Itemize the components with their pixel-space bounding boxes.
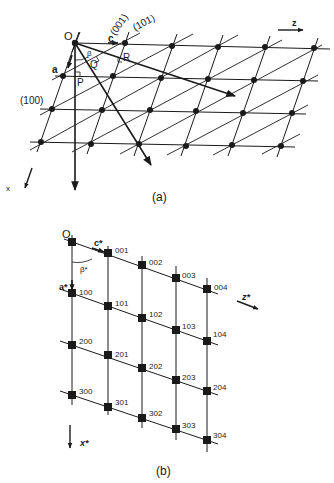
label-plane-001: (001) bbox=[108, 12, 130, 37]
label-plane-101: (101) bbox=[131, 12, 157, 33]
label-x-axis: x bbox=[6, 184, 10, 193]
point-label-302: 302 bbox=[149, 409, 163, 418]
point-label-201: 201 bbox=[115, 350, 129, 359]
x-axis-arrow bbox=[25, 168, 32, 188]
crystal-lattice-figure: O a c β P Q R (001) (101) (100) x z (a) bbox=[0, 0, 334, 483]
label-R: R bbox=[123, 52, 130, 63]
point-label-102: 102 bbox=[149, 310, 163, 319]
label-a-vector: a bbox=[52, 64, 58, 75]
point-label-300: 300 bbox=[79, 387, 93, 396]
label-a-star: a* bbox=[59, 282, 68, 292]
label-z-axis: z bbox=[292, 18, 297, 28]
label-beta: β bbox=[87, 49, 92, 58]
point-label-100: 100 bbox=[79, 288, 93, 297]
point-label-003: 003 bbox=[182, 271, 196, 280]
z-star-arrow bbox=[237, 301, 258, 309]
label-P: P bbox=[77, 77, 84, 88]
panel-a-direct-lattice bbox=[30, 32, 330, 190]
panel-b-labels: O c* β* a* x* z* 001 002 003 004 100 101… bbox=[59, 228, 251, 478]
point-label-001: 001 bbox=[115, 246, 129, 255]
point-label-303: 303 bbox=[182, 421, 196, 430]
label-plane-100: (100) bbox=[20, 95, 43, 106]
point-label-204: 204 bbox=[213, 383, 227, 392]
label-z-star: z* bbox=[241, 292, 251, 302]
point-label-103: 103 bbox=[182, 322, 196, 331]
point-label-202: 202 bbox=[149, 362, 163, 371]
point-label-004: 004 bbox=[214, 283, 228, 292]
point-label-002: 002 bbox=[149, 258, 163, 267]
diagonal-planes bbox=[30, 33, 322, 155]
label-origin-b: O bbox=[62, 228, 71, 240]
caption-b: (b) bbox=[156, 464, 171, 478]
label-c-star: c* bbox=[94, 238, 103, 248]
point-label-203: 203 bbox=[182, 373, 196, 382]
label-x-star: x* bbox=[79, 438, 89, 448]
point-label-301: 301 bbox=[115, 398, 129, 407]
point-label-200: 200 bbox=[79, 337, 93, 346]
point-label-104: 104 bbox=[213, 330, 227, 339]
caption-a: (a) bbox=[152, 190, 167, 204]
label-Q: Q bbox=[90, 59, 98, 70]
label-origin-a: O bbox=[64, 30, 73, 42]
point-label-304: 304 bbox=[213, 431, 227, 440]
label-beta-star: β* bbox=[80, 265, 88, 274]
point-label-101: 101 bbox=[115, 299, 129, 308]
